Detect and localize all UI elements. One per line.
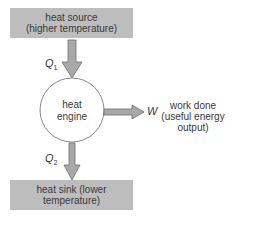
heat-sink-label-line1: heat sink (lower [36, 184, 106, 195]
heat-sink-box: heat sink (lower temperature) [10, 180, 133, 210]
work-symbol-label: W [147, 106, 157, 117]
work-arrow-icon [104, 105, 144, 119]
q1-subscript: 1 [54, 64, 58, 71]
work-label-line2: (useful energy [160, 111, 226, 122]
work-label-line3: output) [160, 122, 226, 133]
heat-engine-label: heat engine [40, 99, 104, 123]
q2-subscript: 2 [54, 159, 58, 166]
heat-sink-label-line2: temperature) [43, 195, 100, 206]
q2-arrow-icon [64, 143, 80, 180]
work-label-line1: work done [160, 100, 226, 111]
engine-label-line2: engine [40, 111, 104, 123]
engine-label-line1: heat [40, 99, 104, 111]
q1-arrow-icon [62, 40, 82, 78]
work-done-label: work done (useful energy output) [160, 100, 226, 133]
w-symbol: W [147, 105, 157, 117]
q2-label: Q2 [45, 153, 57, 168]
q2-symbol: Q [45, 152, 54, 164]
q1-label: Q1 [45, 58, 57, 73]
q1-symbol: Q [45, 57, 54, 69]
